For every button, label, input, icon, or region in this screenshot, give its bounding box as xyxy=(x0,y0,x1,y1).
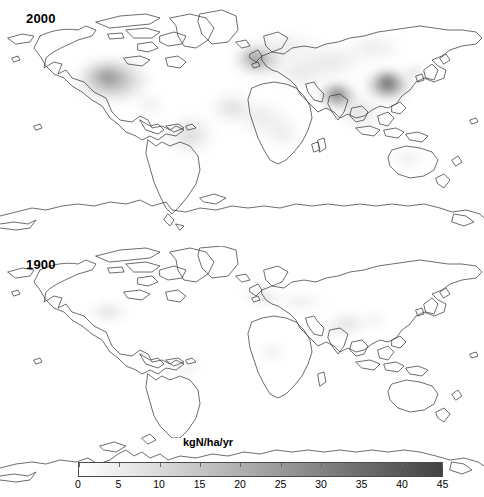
colorbar-tick xyxy=(200,463,201,467)
colorbar-tick-label: 15 xyxy=(194,478,206,490)
nitrogen-deposition-figure: 2000 xyxy=(0,0,484,497)
map-panel-1900: 1900 xyxy=(0,246,484,438)
colorbar-tick xyxy=(402,463,403,467)
map-panel-2000: 2000 xyxy=(0,0,484,236)
colorbar-tick xyxy=(442,463,443,467)
colorbar-tick-label: 30 xyxy=(315,478,327,490)
world-map-2000 xyxy=(0,0,484,236)
colorbar-tick-label: 25 xyxy=(275,478,287,490)
colorbar-tick xyxy=(321,463,322,467)
colorbar-tick-label: 10 xyxy=(153,478,165,490)
colorbar-tick xyxy=(119,463,120,467)
colorbar-tick xyxy=(240,463,241,467)
colorbar-tick-label: 5 xyxy=(116,478,122,490)
colorbar: kgN/ha/yr 0 5 10 15 20 25 30 35 40 45 xyxy=(0,436,484,497)
colorbar-tick-label: 40 xyxy=(396,478,408,490)
colorbar-tick xyxy=(281,463,282,467)
colorbar-tick xyxy=(160,463,161,467)
world-map-1900 xyxy=(0,246,484,438)
panel-year-label-1900: 1900 xyxy=(26,258,56,271)
colorbar-tick xyxy=(79,463,80,467)
colorbar-tick-label: 0 xyxy=(75,478,81,490)
colorbar-tick-label: 35 xyxy=(356,478,368,490)
colorbar-tick-label: 20 xyxy=(234,478,246,490)
colorbar-title: kgN/ha/yr xyxy=(0,436,450,448)
colorbar-tick xyxy=(361,463,362,467)
panel-year-label-2000: 2000 xyxy=(26,12,56,25)
colorbar-tick-label: 45 xyxy=(437,478,449,490)
colorbar-gradient xyxy=(78,462,443,477)
